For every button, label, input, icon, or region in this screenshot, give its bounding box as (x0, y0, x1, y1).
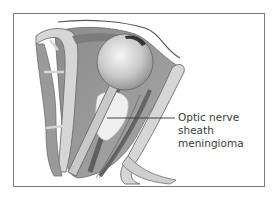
orbit-illustration (0, 0, 279, 197)
label-line-3: meningioma (178, 137, 244, 150)
label-line-2: sheath (178, 124, 244, 137)
label-line-1: Optic nerve (178, 111, 244, 124)
annotation-label: Optic nerve sheath meningioma (178, 111, 244, 150)
